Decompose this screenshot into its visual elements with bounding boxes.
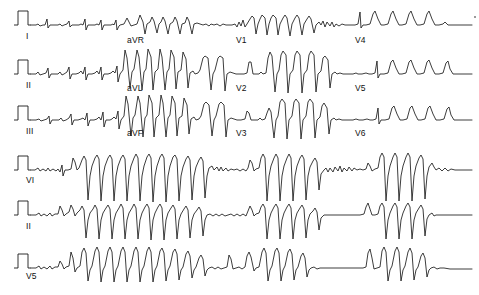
lead-label-V4: V4	[355, 36, 366, 45]
calibration-pulse-row2	[14, 60, 31, 74]
rhythm-label-II: II	[26, 222, 31, 231]
calibration-pulse-rhythm3	[14, 254, 31, 268]
ecg-trace-lead-III	[31, 95, 472, 139]
lead-label-II: II	[26, 81, 31, 90]
calibration-pulse-rhythm1	[14, 156, 31, 170]
ecg-rhythm-strip-V1	[14, 153, 472, 202]
ecg-trace-rhythm-II	[31, 203, 472, 240]
lead-label-aVR: aVR	[127, 36, 144, 45]
ecg-trace-lead-II	[31, 49, 472, 93]
lead-label-V6: V6	[355, 129, 366, 138]
lead-label-V3: V3	[236, 129, 247, 138]
rhythm-label-V5: V5	[26, 272, 37, 281]
lead-label-I: I	[26, 32, 29, 41]
lead-label-aVL: aVL	[127, 84, 143, 93]
lead-label-III: III	[26, 127, 34, 136]
ecg-trace-rhythm-V1	[31, 153, 472, 202]
ecg-trace-lead-I	[31, 11, 472, 36]
ecg-page: I aVR V1 V4 II aVL V2 V5 III aVF V3 V6 V…	[0, 0, 479, 295]
scan-artifact-speck	[474, 16, 476, 18]
calibration-pulse-row1	[14, 11, 31, 25]
calibration-pulse-row3	[14, 106, 31, 120]
ecg-rhythm-strip-II	[14, 201, 472, 240]
ecg-row-1	[14, 11, 472, 36]
lead-label-aVF: aVF	[127, 129, 143, 138]
lead-label-V2: V2	[236, 84, 247, 93]
ecg-trace-rhythm-V5	[31, 247, 472, 282]
lead-label-V5: V5	[355, 84, 366, 93]
lead-label-V1: V1	[236, 36, 247, 45]
ecg-rhythm-strip-V5	[14, 247, 472, 282]
rhythm-label-V1: VI	[26, 176, 34, 185]
calibration-pulse-rhythm2	[14, 201, 31, 215]
